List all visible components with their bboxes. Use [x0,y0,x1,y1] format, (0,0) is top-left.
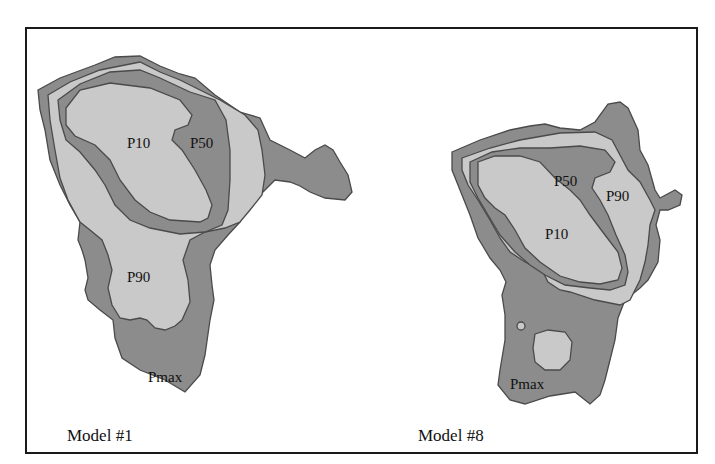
model-8-title: Model #8 [418,427,484,444]
model-8-small-patch [517,322,525,330]
model-1-pmax-label: Pmax [148,370,182,385]
model-8-isolated-patch [533,330,572,370]
model-8-p10-label: P10 [545,227,568,242]
model-1-p50-label: P50 [190,136,213,151]
contour-maps [0,0,715,464]
model-8-pmax-label: Pmax [510,377,544,392]
model-8-map [452,102,682,404]
model-1-map [38,56,352,392]
model-1-p10-label: P10 [127,136,150,151]
model-8-p90-label: P90 [606,189,629,204]
model-8-p50-label: P50 [554,174,577,189]
model-1-p90-label: P90 [127,270,150,285]
model-1-title: Model #1 [67,427,133,444]
